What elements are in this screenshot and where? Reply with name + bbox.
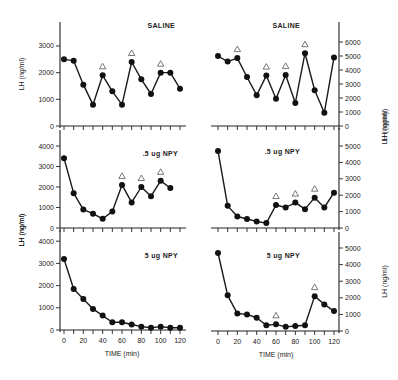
pulse-triangle-icon [311, 186, 317, 192]
data-point-marker [283, 324, 289, 330]
data-point-marker [158, 70, 164, 76]
pulse-triangle-icon [282, 63, 288, 69]
data-point-marker [80, 296, 86, 302]
data-point-marker [292, 200, 298, 206]
lh-pulse-figure: 0100020003000LH (ng/ml)SALINE01000200030… [0, 0, 398, 380]
data-point-marker [148, 91, 154, 97]
data-point-marker [158, 324, 164, 330]
data-point-marker [283, 205, 289, 211]
pulse-triangle-icon [273, 193, 279, 199]
x-tick-label: 80 [291, 338, 299, 345]
data-point-marker [109, 209, 115, 215]
data-point-marker [61, 155, 67, 161]
data-point-marker [225, 292, 231, 298]
data-point-marker [292, 100, 298, 106]
y-tick-label: 4000 [345, 261, 361, 268]
data-point-marker [90, 102, 96, 108]
y-tick-label: 3000 [38, 260, 54, 267]
data-point-marker [254, 218, 260, 224]
data-point-marker [129, 59, 135, 65]
data-point-marker [234, 214, 240, 220]
y-tick-label: 5000 [345, 143, 361, 150]
data-point-marker [167, 325, 173, 331]
data-point-marker [71, 190, 77, 196]
data-point-marker [119, 319, 125, 325]
data-point-marker [302, 50, 308, 56]
data-point-marker [158, 178, 164, 184]
data-point-marker [119, 102, 125, 108]
data-point-marker [129, 199, 135, 205]
data-point-marker [234, 55, 240, 61]
y-tick-label: 2000 [345, 294, 361, 301]
y-tick-label: 0 [50, 123, 54, 130]
data-point-marker [71, 58, 77, 64]
x-tick-label: 60 [118, 337, 126, 344]
data-point-marker [263, 322, 269, 328]
x-tick-label: 20 [233, 338, 241, 345]
y-tick-label: 5000 [345, 53, 361, 60]
pulse-triangle-icon [302, 41, 308, 47]
data-point-marker [254, 92, 260, 98]
x-tick-label: 60 [272, 338, 280, 345]
data-point-marker [321, 205, 327, 211]
data-point-marker [109, 88, 115, 94]
data-point-marker [109, 319, 115, 325]
data-point-marker [225, 59, 231, 65]
y-tick-label: 2000 [38, 282, 54, 289]
data-point-marker [312, 195, 318, 201]
panel-label: SALINE [148, 22, 175, 29]
pulse-triangle-icon [273, 312, 279, 318]
data-point-marker [302, 206, 308, 212]
pulse-triangle-icon [292, 191, 298, 197]
y-axis-title: LH (ng/ml) [381, 265, 389, 298]
data-point-marker [312, 293, 318, 299]
data-point-marker [138, 184, 144, 190]
lh-series-line [218, 151, 334, 223]
data-point-marker [225, 203, 231, 209]
pulse-triangle-icon [138, 175, 144, 181]
pulse-triangle-icon [234, 46, 240, 52]
y-tick-label: 3000 [38, 163, 54, 170]
y-axis-title: LH (ng/ml) [18, 214, 26, 247]
data-point-marker [254, 315, 260, 321]
lh-series-line [64, 259, 180, 328]
y-tick-label: 1000 [38, 304, 54, 311]
data-point-marker [177, 86, 183, 92]
y-tick-label: 4000 [345, 67, 361, 74]
y-tick-label: 3000 [345, 278, 361, 285]
data-point-marker [263, 73, 269, 79]
data-point-marker [61, 56, 67, 62]
data-point-marker [215, 148, 221, 154]
data-point-marker [263, 220, 269, 226]
data-point-marker [138, 76, 144, 82]
x-tick-label: 120 [328, 338, 340, 345]
pulse-triangle-icon [157, 169, 163, 175]
y-tick-label: 3000 [38, 42, 54, 49]
y-axis-title: LH (ng/ml) [381, 109, 389, 142]
y-tick-label: 2000 [38, 184, 54, 191]
panel-label: .5 ug NPY [265, 148, 300, 156]
data-point-marker [167, 185, 173, 191]
y-tick-label: 3000 [345, 81, 361, 88]
y-tick-label: 2000 [345, 192, 361, 199]
y-tick-label: 4000 [38, 143, 54, 150]
pulse-triangle-icon [128, 50, 134, 56]
x-axis-title: TIME (min) [259, 351, 294, 359]
data-point-marker [100, 313, 106, 319]
x-tick-label: 100 [155, 337, 167, 344]
chart-canvas: 0100020003000LH (ng/ml)SALINE01000200030… [0, 0, 398, 380]
data-point-marker [100, 216, 106, 222]
panel-middle-left: 01000200030004000LH (ng/ml).5 ug NPY [18, 143, 186, 247]
data-point-marker [302, 322, 308, 328]
panel-top-right: 0100020003000400050006000LH (ng/ml)SALIN… [211, 22, 389, 144]
lh-series-line [64, 158, 170, 218]
pulse-triangle-icon [157, 61, 163, 67]
y-tick-label: 0 [345, 225, 349, 232]
data-point-marker [129, 321, 135, 327]
y-tick-label: 0 [50, 225, 54, 232]
data-point-marker [148, 193, 154, 199]
y-tick-label: 1000 [345, 311, 361, 318]
y-tick-label: 3000 [345, 175, 361, 182]
y-tick-label: 1000 [345, 208, 361, 215]
pulse-triangle-icon [99, 63, 105, 69]
